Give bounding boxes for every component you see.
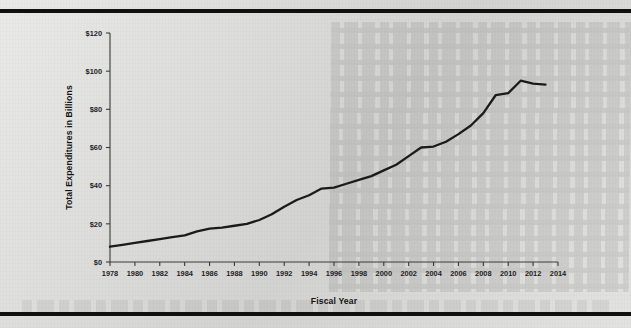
- y-axis-tick-label: $100: [86, 67, 102, 76]
- x-axis-tick-label: 1980: [127, 269, 143, 278]
- x-axis-tick-label: 1992: [276, 269, 292, 278]
- x-axis-tick-label: 1994: [301, 269, 318, 278]
- expenditures-line-series: [110, 81, 546, 247]
- y-axis-tick-label: $40: [90, 181, 102, 190]
- axis-lines: [110, 33, 558, 262]
- x-axis-tick-label: 2006: [450, 269, 466, 278]
- x-axis-tick-label: 1986: [201, 269, 217, 278]
- x-axis-tick-label: 1998: [351, 269, 367, 278]
- x-axis-tick-label: 1988: [226, 269, 242, 278]
- x-axis-tick-label: 2004: [425, 269, 442, 278]
- x-axis-tick-label: 2012: [525, 269, 541, 278]
- x-axis-title: Fiscal Year: [311, 296, 358, 306]
- y-axis-tick-label: $0: [94, 258, 102, 267]
- line-chart: $0$20$40$60$80$100$120 19781980198219841…: [0, 14, 631, 310]
- x-axis-tick-label: 2002: [400, 269, 416, 278]
- x-axis-tick-group: 1978198019821984198619881990199219941996…: [102, 262, 567, 278]
- y-axis-title: Total Expenditures in Billions: [64, 85, 74, 210]
- y-axis-tick-label: $60: [90, 143, 102, 152]
- y-axis-tick-label: $80: [90, 105, 102, 114]
- y-axis-tick-label: $20: [90, 220, 102, 229]
- x-axis-tick-label: 2010: [500, 269, 516, 278]
- x-axis-tick-label: 1990: [251, 269, 267, 278]
- page-rule-bottom: [0, 312, 631, 316]
- x-axis-tick-label: 1978: [102, 269, 118, 278]
- y-axis-tick-label: $120: [86, 29, 102, 38]
- y-axis-tick-group: $0$20$40$60$80$100$120: [86, 29, 110, 267]
- x-axis-tick-label: 1984: [176, 269, 193, 278]
- x-axis-tick-label: 1982: [152, 269, 168, 278]
- chart-canvas: $0$20$40$60$80$100$120 19781980198219841…: [0, 14, 631, 310]
- x-axis-tick-label: 2014: [550, 269, 567, 278]
- page-rule-top: [0, 9, 631, 13]
- x-axis-tick-label: 2000: [376, 269, 392, 278]
- x-axis-tick-label: 1996: [326, 269, 342, 278]
- x-axis-tick-label: 2008: [475, 269, 491, 278]
